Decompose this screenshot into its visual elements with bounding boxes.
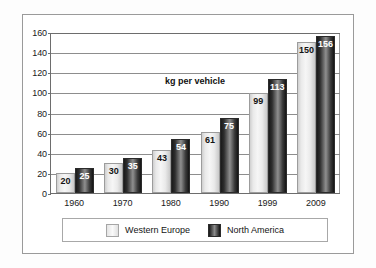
bar-value-label: 150 — [299, 46, 314, 55]
bar-value-label: 99 — [253, 97, 263, 106]
bar-north-america-1970[interactable]: 35 — [123, 158, 142, 193]
bar-north-america-1960[interactable]: 25 — [75, 168, 94, 193]
bar-north-america-1990[interactable]: 75 — [220, 118, 239, 193]
bar-group: 6175 — [196, 33, 244, 193]
bar-western-europe-1999[interactable]: 99 — [249, 93, 268, 193]
y-axis-tick-label: 40 — [37, 149, 47, 159]
y-axis-tick-mark — [48, 194, 51, 195]
bar-group: 2025 — [51, 33, 99, 193]
bar-value-label: 35 — [128, 162, 138, 171]
y-axis-tick-label: 20 — [37, 169, 47, 179]
y-axis-tick-label: 160 — [32, 28, 47, 38]
bar-north-america-2009[interactable]: 156 — [316, 36, 335, 193]
bar-western-europe-1970[interactable]: 30 — [104, 163, 123, 193]
x-axis-tick-label: 2009 — [292, 198, 340, 208]
y-axis-tick-label: 140 — [32, 48, 47, 58]
y-axis-tick-label: 0 — [42, 189, 47, 199]
x-axis-tick-label: 1960 — [50, 198, 98, 208]
bar-western-europe-1960[interactable]: 20 — [56, 173, 75, 193]
bar-value-label: 20 — [61, 177, 71, 186]
legend-swatch-north-america — [208, 224, 221, 237]
x-axis-labels: 196019701980199019992009 — [50, 198, 340, 208]
x-axis-tick-label: 1970 — [98, 198, 146, 208]
legend-item-western-europe[interactable]: Western Europe — [106, 224, 190, 237]
bar-western-europe-1990[interactable]: 61 — [201, 132, 220, 193]
y-axis-tick-label: 80 — [37, 109, 47, 119]
chart-legend: Western Europe North America — [62, 218, 328, 242]
x-axis-tick-label: 1990 — [195, 198, 243, 208]
y-axis-tick-label: 60 — [37, 129, 47, 139]
y-axis-tick-label: 120 — [32, 68, 47, 78]
bar-north-america-1980[interactable]: 54 — [171, 139, 190, 193]
bar-group: 4354 — [147, 33, 195, 193]
legend-swatch-western-europe — [106, 224, 119, 237]
bar-group: 150156 — [292, 33, 340, 193]
bar-north-america-1999[interactable]: 113 — [268, 79, 287, 193]
chart-figure: 020406080100120140160 202530354354617599… — [0, 0, 376, 268]
x-axis-tick-label: 1980 — [147, 198, 195, 208]
x-axis-tick-label: 1999 — [243, 198, 291, 208]
legend-label-north-america: North America — [227, 225, 284, 235]
legend-item-north-america[interactable]: North America — [208, 224, 284, 237]
bar-group: 3035 — [99, 33, 147, 193]
bar-value-label: 43 — [157, 154, 167, 163]
bar-value-label: 156 — [318, 40, 333, 49]
y-axis-tick-label: 100 — [32, 88, 47, 98]
plot-area: 020406080100120140160 202530354354617599… — [50, 33, 340, 194]
bar-groups: 202530354354617599113150156 — [51, 33, 340, 193]
bar-value-label: 75 — [224, 122, 234, 131]
bar-western-europe-2009[interactable]: 150 — [297, 42, 316, 193]
bar-value-label: 113 — [270, 83, 285, 92]
legend-label-western-europe: Western Europe — [125, 225, 190, 235]
bar-value-label: 30 — [109, 167, 119, 176]
bar-value-label: 61 — [205, 136, 215, 145]
bar-value-label: 25 — [80, 172, 90, 181]
bar-value-label: 54 — [176, 143, 186, 152]
bar-group: 99113 — [244, 33, 292, 193]
bar-western-europe-1980[interactable]: 43 — [152, 150, 171, 193]
